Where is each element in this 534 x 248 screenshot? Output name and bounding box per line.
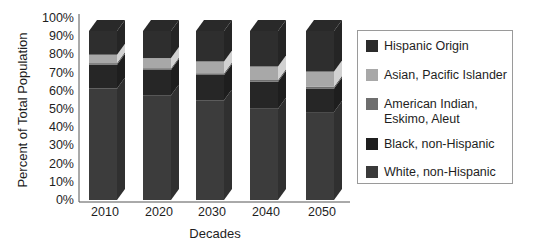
bar-segment <box>250 109 278 200</box>
legend-item-black: Black, non-Hispanic <box>366 137 494 152</box>
legend: Hispanic Origin Asian, Pacific Islander … <box>357 30 513 184</box>
legend-label: Hispanic Origin <box>384 39 469 54</box>
y-tick-label: 30% <box>49 138 74 152</box>
legend-label: White, non-Hispanic <box>384 165 496 180</box>
y-tick-label: 80% <box>49 47 74 61</box>
bar-segment <box>143 68 171 70</box>
legend-swatch-icon <box>366 69 378 81</box>
bar-side <box>224 89 232 200</box>
legend-label: American Indian, Eskimo, Aleut <box>384 97 478 127</box>
bar-side <box>171 84 179 200</box>
x-tick-label: 2030 <box>198 205 226 219</box>
chart-area: 0%10%20%30%40%50%60%70%80%90%100%2010202… <box>0 0 534 248</box>
legend-item-white: White, non-Hispanic <box>366 165 496 180</box>
bar-segment <box>250 80 278 82</box>
y-tick-label: 0% <box>56 193 74 207</box>
bar-segment <box>89 31 117 55</box>
bar-segment <box>196 100 224 200</box>
legend-item-asian: Asian, Pacific Islander <box>366 68 507 83</box>
bar-segment <box>306 88 334 112</box>
bar-segment <box>306 87 334 89</box>
bar-segment <box>89 65 117 89</box>
y-tick-label: 90% <box>49 29 74 43</box>
bar-segment <box>306 112 334 200</box>
bar-segment <box>250 82 278 109</box>
bar-segment <box>250 31 278 66</box>
y-axis-title: Percent of Total Population <box>15 32 30 187</box>
legend-swatch-icon <box>366 166 378 178</box>
bar-segment <box>306 31 334 72</box>
bar-side <box>334 101 342 200</box>
bar-segment <box>143 58 171 68</box>
x-axis-title: Decades <box>189 226 240 241</box>
x-tick-label: 2050 <box>308 205 336 219</box>
x-tick-label: 2010 <box>91 205 119 219</box>
y-tick-label: 100% <box>42 11 74 25</box>
bar-segment <box>143 70 171 95</box>
bar-segment <box>196 61 224 73</box>
bar-segment <box>196 31 224 61</box>
legend-swatch-icon <box>366 98 378 110</box>
legend-swatch-icon <box>366 40 378 52</box>
y-tick-label: 20% <box>49 157 74 171</box>
bar-segment <box>143 31 171 58</box>
y-tick-label: 40% <box>49 120 74 134</box>
bar-segment <box>306 72 334 87</box>
legend-item-american-indian: American Indian, Eskimo, Aleut <box>366 97 478 127</box>
bar-side <box>117 77 125 200</box>
y-tick-label: 50% <box>49 102 74 116</box>
bar-segment <box>250 66 278 80</box>
legend-swatch-icon <box>366 138 378 150</box>
legend-label: Asian, Pacific Islander <box>384 68 507 83</box>
legend-label: Black, non-Hispanic <box>384 137 494 152</box>
bar-side <box>278 98 286 200</box>
x-tick-label: 2020 <box>145 205 173 219</box>
bar-segment <box>143 95 171 200</box>
legend-item-hispanic: Hispanic Origin <box>366 39 469 54</box>
bar-segment <box>89 63 117 65</box>
x-tick-label: 2040 <box>252 205 280 219</box>
bar-segment <box>196 73 224 75</box>
y-tick-label: 10% <box>49 175 74 189</box>
bar-segment <box>196 75 224 100</box>
bar-segment <box>89 88 117 200</box>
y-tick-label: 70% <box>49 66 74 80</box>
y-tick-label: 60% <box>49 84 74 98</box>
bar-segment <box>89 55 117 63</box>
